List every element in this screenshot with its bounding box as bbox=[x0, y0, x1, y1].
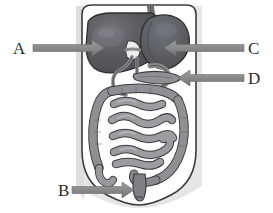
label-letter-d: D bbox=[248, 70, 260, 87]
digestive-system-figure: A C D B bbox=[0, 0, 273, 213]
arrow-d bbox=[178, 70, 244, 86]
rectum-organ bbox=[133, 174, 146, 201]
label-letter-a: A bbox=[13, 40, 25, 57]
label-letter-b: B bbox=[58, 182, 69, 199]
arrow-c bbox=[164, 40, 244, 56]
anatomy-illustration bbox=[0, 0, 273, 213]
arrow-a bbox=[33, 40, 104, 56]
label-letter-c: C bbox=[248, 40, 259, 57]
